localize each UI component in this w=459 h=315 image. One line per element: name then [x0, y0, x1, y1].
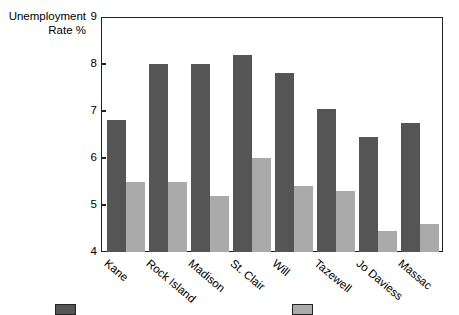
bar[interactable]: [378, 231, 397, 252]
y-tick-mark: [101, 157, 106, 159]
bar[interactable]: [252, 158, 271, 252]
bar[interactable]: [359, 137, 378, 252]
x-tick-label: Will: [270, 257, 292, 278]
bar[interactable]: [191, 64, 210, 252]
bar[interactable]: [168, 182, 187, 253]
legend-swatch: [55, 304, 76, 315]
bar[interactable]: [275, 73, 294, 252]
y-tick-label: 9: [75, 11, 97, 23]
x-tick-label: Kane: [102, 257, 130, 283]
x-tick-label: Madison: [186, 257, 227, 294]
y-tick-label: 6: [75, 152, 97, 164]
y-tick-mark: [101, 204, 106, 206]
bar[interactable]: [107, 120, 126, 252]
y-tick-label: 7: [75, 105, 97, 117]
bar[interactable]: [420, 224, 439, 252]
bar[interactable]: [233, 55, 252, 252]
bar[interactable]: [126, 182, 145, 253]
bar[interactable]: [149, 64, 168, 252]
x-tick-label: Tazewell: [312, 257, 354, 295]
x-tick-label: Massac: [396, 257, 434, 292]
bar[interactable]: [317, 109, 336, 252]
y-tick-label: 4: [75, 246, 97, 258]
legend-swatch: [292, 304, 313, 315]
bar[interactable]: [294, 186, 313, 252]
y-tick-label: 8: [75, 58, 97, 70]
y-tick-mark: [101, 110, 106, 112]
y-tick-mark: [101, 63, 106, 65]
y-tick-label: 5: [75, 199, 97, 211]
y-axis-title: Unemployment Rate %: [0, 9, 86, 37]
bar[interactable]: [336, 191, 355, 252]
x-tick-label: St. Clair: [228, 257, 267, 292]
bar[interactable]: [210, 196, 229, 252]
bar[interactable]: [401, 123, 420, 252]
